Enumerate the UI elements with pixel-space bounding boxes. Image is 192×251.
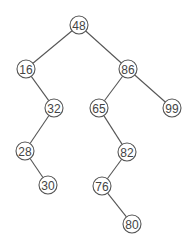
- tree-node-48: 48: [70, 16, 88, 34]
- edge-65-82: [104, 116, 122, 145]
- tree-node-82: 82: [118, 143, 136, 161]
- edge-48-86: [86, 31, 122, 63]
- edge-16-32: [31, 76, 49, 100]
- node-label: 16: [19, 63, 33, 77]
- node-label: 86: [121, 63, 135, 77]
- node-label: 32: [47, 102, 61, 116]
- tree-node-30: 30: [39, 176, 57, 194]
- edge-28-30: [30, 158, 43, 177]
- tree-node-99: 99: [163, 99, 181, 117]
- node-label: 28: [18, 145, 32, 159]
- node-label: 48: [72, 19, 86, 33]
- binary-tree-diagram: 4816863265992882307680: [0, 0, 192, 251]
- tree-node-32: 32: [45, 99, 63, 117]
- node-label: 80: [125, 218, 139, 232]
- edge-32-28: [30, 115, 49, 143]
- tree-node-76: 76: [93, 177, 111, 195]
- tree-nodes: 4816863265992882307680: [16, 16, 181, 233]
- edge-82-76: [107, 159, 121, 178]
- edge-86-99: [135, 75, 166, 102]
- node-label: 65: [92, 102, 106, 116]
- edge-86-65: [104, 76, 122, 101]
- edge-48-16: [33, 31, 72, 64]
- node-label: 99: [165, 102, 179, 116]
- node-label: 76: [95, 180, 109, 194]
- tree-node-65: 65: [90, 99, 108, 117]
- tree-node-86: 86: [119, 60, 137, 78]
- tree-node-16: 16: [17, 60, 35, 78]
- node-label: 82: [120, 146, 134, 160]
- node-label: 30: [41, 179, 55, 193]
- tree-node-28: 28: [16, 142, 34, 160]
- tree-node-80: 80: [123, 215, 141, 233]
- edge-76-80: [108, 193, 127, 217]
